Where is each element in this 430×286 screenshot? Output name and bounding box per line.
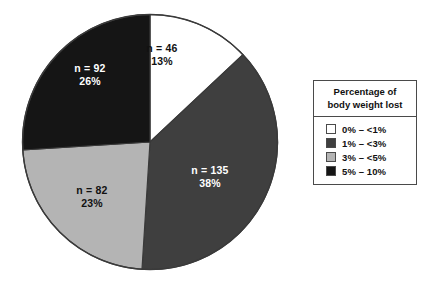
pie-svg — [20, 12, 280, 272]
legend-item-1: 1% – <3% — [314, 136, 416, 150]
legend-swatch-3 — [326, 166, 336, 176]
legend-items: 0% – <1%1% – <3%3% – <5%5% – 10% — [314, 117, 416, 184]
legend-label-1: 1% – <3% — [342, 138, 386, 149]
legend-item-3: 5% – 10% — [314, 164, 416, 178]
legend-item-2: 3% – <5% — [314, 150, 416, 164]
legend-label-0: 0% – <1% — [342, 124, 386, 135]
legend-swatch-1 — [326, 138, 336, 148]
legend-title-line-2: body weight lost — [318, 99, 412, 112]
legend-label-2: 3% – <5% — [342, 152, 386, 163]
pie-slice-2 — [23, 142, 150, 269]
pie-chart-figure: n = 46 13% n = 135 38% n = 82 23% n = 92… — [0, 0, 430, 286]
legend-swatch-0 — [326, 124, 336, 134]
legend-item-0: 0% – <1% — [314, 122, 416, 136]
legend: Percentage of body weight lost 0% – <1%1… — [313, 80, 417, 185]
pie-slices — [22, 15, 277, 270]
legend-title: Percentage of body weight lost — [314, 81, 416, 117]
legend-swatch-2 — [326, 152, 336, 162]
pie-slice-3 — [22, 15, 150, 151]
pie-chart: n = 46 13% n = 135 38% n = 82 23% n = 92… — [20, 12, 280, 272]
legend-label-3: 5% – 10% — [342, 166, 386, 177]
legend-title-line-1: Percentage of — [318, 86, 412, 99]
